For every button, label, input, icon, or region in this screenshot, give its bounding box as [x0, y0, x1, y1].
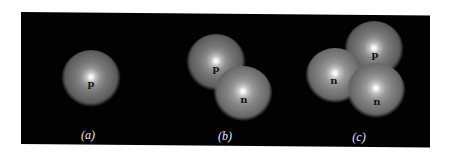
neutron-label: n	[367, 97, 387, 107]
proton-label: p	[365, 50, 385, 60]
proton-label: p	[81, 79, 101, 89]
neutron-label: n	[234, 95, 254, 105]
neutron-label: n	[324, 76, 344, 86]
caption-a: (a)	[73, 129, 103, 141]
caption-c: (c)	[344, 131, 374, 143]
nuclei-diagram: p (a) p n (b) p n n (c)	[0, 0, 451, 161]
neutron-sphere	[346, 63, 406, 123]
caption-b: (b)	[210, 130, 240, 142]
